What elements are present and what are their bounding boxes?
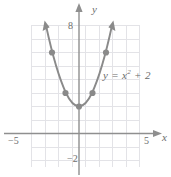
coordinate-plane-svg <box>0 0 171 177</box>
data-point <box>103 49 109 55</box>
y-tick-label-minus2: −2 <box>67 154 78 164</box>
data-point <box>89 90 95 96</box>
equation-label: y = x2 + 2 <box>103 69 151 81</box>
graph-figure: y x 8 −2 −5 5 y = x2 + 2 <box>0 0 171 177</box>
equation-plus: + <box>134 69 142 81</box>
y-axis-label: y <box>92 4 97 15</box>
y-tick-label-8: 8 <box>68 21 73 31</box>
axes <box>4 9 156 175</box>
data-point <box>49 49 55 55</box>
x-axis-arrowhead <box>153 130 162 137</box>
data-point <box>76 103 82 109</box>
equation-equals: = <box>111 69 119 81</box>
grid-lines <box>32 25 140 167</box>
y-axis-arrowhead <box>75 3 82 12</box>
data-point <box>62 90 68 96</box>
x-tick-label-5: 5 <box>144 136 149 146</box>
equation-constant: 2 <box>145 69 151 81</box>
x-tick-label-minus5: −5 <box>8 136 19 146</box>
x-axis-label: x <box>162 132 167 143</box>
